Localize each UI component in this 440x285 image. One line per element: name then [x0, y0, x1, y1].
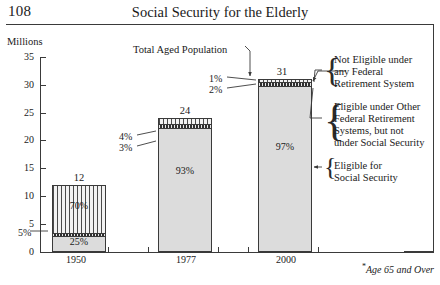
legend-social-security-line-2: Social Security	[334, 172, 398, 184]
bar-1977-total-label: 24	[155, 105, 215, 116]
legend-other-federal-line-1: Eligible under Other	[334, 101, 424, 113]
x-tick-label-1977: 1977	[156, 254, 216, 265]
y-axis-tick-25	[41, 113, 46, 114]
bar-2000-segment-social-security	[259, 87, 311, 251]
leader-1977-other-federal	[137, 141, 156, 146]
legend-item-other-federal: Eligible under Other Federal Retirement …	[334, 101, 424, 149]
bar-1977-label-other-federal: 3%	[119, 142, 132, 153]
chart-plot-area: Millions 35 30 25 20 15 10 5 0 1950 1977…	[0, 0, 440, 285]
y-tick-label-15: 15	[10, 162, 34, 173]
legend-item-social-security: Eligible for Social Security	[334, 160, 398, 184]
bar-1977	[158, 118, 212, 252]
bar-1950-label-social-security: 25%	[49, 236, 109, 247]
figure-page: 108 Social Security for the Elderly Mill…	[0, 0, 440, 285]
bar-1950-total-label: 12	[49, 172, 109, 183]
x-tick-label-1950: 1950	[46, 254, 106, 265]
x-axis-tick-3	[218, 247, 219, 253]
y-axis-tick-10	[41, 196, 46, 197]
bar-1977-label-not-eligible: 4%	[119, 131, 132, 142]
legend-other-federal-line-4: under Social Security	[334, 137, 424, 149]
x-axis-tick-4	[248, 247, 249, 253]
y-axis-tick-15	[41, 168, 46, 169]
y-tick-label-35: 35	[10, 51, 34, 62]
leader-2000-other-federal	[227, 84, 256, 88]
legend-not-eligible-line-2: any Federal	[334, 66, 414, 78]
bar-1977-segment-social-security	[159, 129, 211, 251]
x-axis-line	[40, 252, 434, 253]
bar-1950-label-not-eligible: 70%	[49, 200, 109, 211]
legend-social-security-line-1: Eligible for	[334, 160, 398, 172]
leader-2000-not-eligible	[227, 77, 256, 80]
bar-2000-total-label: 31	[252, 66, 312, 77]
legend-other-federal-line-3: Systems, but not	[334, 125, 424, 137]
x-axis-tick-2	[148, 247, 149, 253]
y-tick-label-0: 0	[10, 246, 34, 257]
y-axis-tick-20	[41, 140, 46, 141]
bar-2000-label-other-federal: 2%	[209, 84, 222, 95]
legend-item-not-eligible: Not Eligible under any Federal Retiremen…	[334, 54, 414, 90]
leader-1977-not-eligible	[137, 131, 156, 135]
y-axis-tick-35	[40, 57, 46, 58]
bar-2000-label-not-eligible: 1%	[209, 73, 222, 84]
y-axis-tick-5	[41, 224, 46, 225]
footnote-text: Age 65 and Over	[366, 264, 434, 275]
x-axis-tick-5	[318, 247, 319, 253]
legend-not-eligible-line-1: Not Eligible under	[334, 54, 414, 66]
y-tick-label-10: 10	[10, 190, 34, 201]
bar-1977-label-social-security: 93%	[155, 165, 215, 176]
y-tick-label-25: 25	[10, 107, 34, 118]
total-aged-population-callout: Total Aged Population	[133, 44, 227, 56]
legend-not-eligible-line-3: Retirement System	[334, 78, 414, 90]
y-tick-label-20: 20	[10, 134, 34, 145]
total-callout-leader	[245, 46, 250, 62]
figure-footnote: *Age 65 and Over	[362, 262, 434, 275]
bar-2000-label-social-security: 97%	[255, 141, 315, 152]
bar-1950-label-other-federal: 5%	[18, 227, 31, 238]
y-tick-label-30: 30	[10, 79, 34, 90]
legend-other-federal-line-2: Federal Retirement	[334, 113, 424, 125]
bar-2000	[258, 79, 312, 252]
y-axis-tick-30	[41, 85, 46, 86]
x-tick-label-2000: 2000	[256, 254, 316, 265]
y-axis-title: Millions	[7, 36, 43, 47]
x-axis-tick-1	[108, 247, 109, 253]
legend-leader-not-eligible	[314, 70, 322, 82]
